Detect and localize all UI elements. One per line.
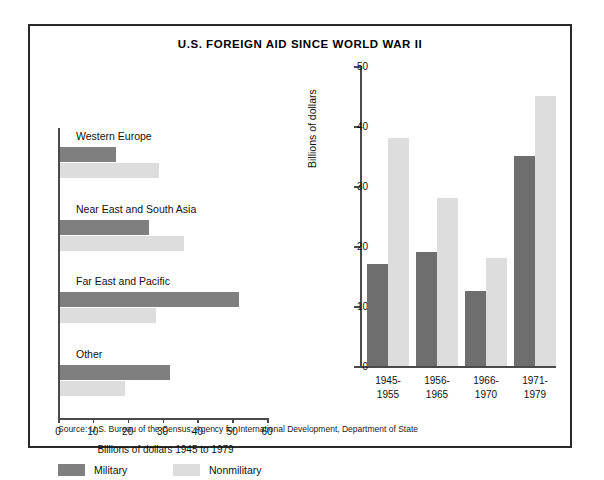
left-category-group: Other xyxy=(60,348,269,421)
left-category-label: Far East and Pacific xyxy=(76,275,170,287)
right-category-label: 1966-1970 xyxy=(473,374,499,402)
horizontal-bar-chart: 0102030405060 Western EuropeNear East an… xyxy=(30,72,302,450)
figure-frame: U.S. FOREIGN AID SINCE WORLD WAR II 0102… xyxy=(28,24,572,448)
right-bar-nonmilitary xyxy=(437,198,458,366)
right-category-label-line: 1965 xyxy=(424,388,450,402)
right-category-label-line: 1955 xyxy=(375,388,401,402)
left-bar-nonmilitary xyxy=(60,163,159,178)
left-bar-military xyxy=(60,365,170,380)
right-ticklabel-20: 20 xyxy=(348,241,368,252)
left-category-label: Near East and South Asia xyxy=(76,203,196,215)
left-category-group: Western Europe xyxy=(60,130,269,203)
left-category-group: Far East and Pacific xyxy=(60,275,269,348)
legend-swatch-military-icon xyxy=(58,464,85,476)
legend-swatch-nonmilitary-icon xyxy=(173,464,200,476)
vertical-bar-chart: Billions of dollars 01020304050 1945-195… xyxy=(302,56,570,450)
right-plot-area: 01020304050 1945-19551956-19651966-19701… xyxy=(360,66,556,366)
right-axis-label: Billions of dollars xyxy=(306,89,318,168)
legend-label-military: Military xyxy=(94,464,127,476)
right-category-label: 1945-1955 xyxy=(375,374,401,402)
right-category-label-line: 1979 xyxy=(522,388,548,402)
right-ticklabel-50: 50 xyxy=(348,61,368,72)
right-bar-military xyxy=(465,291,486,366)
right-bar-military xyxy=(416,252,437,366)
right-bar-military xyxy=(514,156,535,366)
left-bar-nonmilitary xyxy=(60,308,156,323)
right-category-label-line: 1966- xyxy=(473,374,499,388)
legend-item-nonmilitary: Nonmilitary xyxy=(173,464,262,476)
right-ticklabel-40: 40 xyxy=(348,121,368,132)
left-category-group: Near East and South Asia xyxy=(60,203,269,276)
left-bar-military xyxy=(60,292,239,307)
left-plot-area: 0102030405060 Western EuropeNear East an… xyxy=(58,128,270,418)
left-bar-military xyxy=(60,220,149,235)
right-category-label-line: 1970 xyxy=(473,388,499,402)
right-category-axis xyxy=(360,366,556,368)
right-value-axis xyxy=(360,66,362,366)
right-ticklabel-30: 30 xyxy=(348,181,368,192)
left-bar-nonmilitary xyxy=(60,236,184,251)
left-category-label: Other xyxy=(76,348,102,360)
right-category-label-line: 1945- xyxy=(375,374,401,388)
chart-legend: Military Nonmilitary xyxy=(58,464,298,480)
right-category-label: 1956-1965 xyxy=(424,374,450,402)
left-bar-nonmilitary xyxy=(60,381,125,396)
right-category-label: 1971-1979 xyxy=(522,374,548,402)
legend-item-military: Military xyxy=(58,464,127,476)
right-ticklabel-0: 0 xyxy=(348,361,368,372)
source-note: Source: U.S. Bureau of the Census; Agenc… xyxy=(58,424,418,434)
right-category-label-line: 1971- xyxy=(522,374,548,388)
left-category-label: Western Europe xyxy=(76,130,152,142)
right-bar-nonmilitary xyxy=(486,258,507,366)
left-axis-label: Billions of dollars 1945 to 1979 xyxy=(58,444,273,455)
left-bar-military xyxy=(60,147,116,162)
right-category-label-line: 1956- xyxy=(424,374,450,388)
right-ticklabel-10: 10 xyxy=(348,301,368,312)
right-bar-nonmilitary xyxy=(535,96,556,366)
page-title: U.S. FOREIGN AID SINCE WORLD WAR II xyxy=(30,38,570,50)
right-bar-nonmilitary xyxy=(388,138,409,366)
legend-label-nonmilitary: Nonmilitary xyxy=(209,464,262,476)
right-bar-military xyxy=(367,264,388,366)
